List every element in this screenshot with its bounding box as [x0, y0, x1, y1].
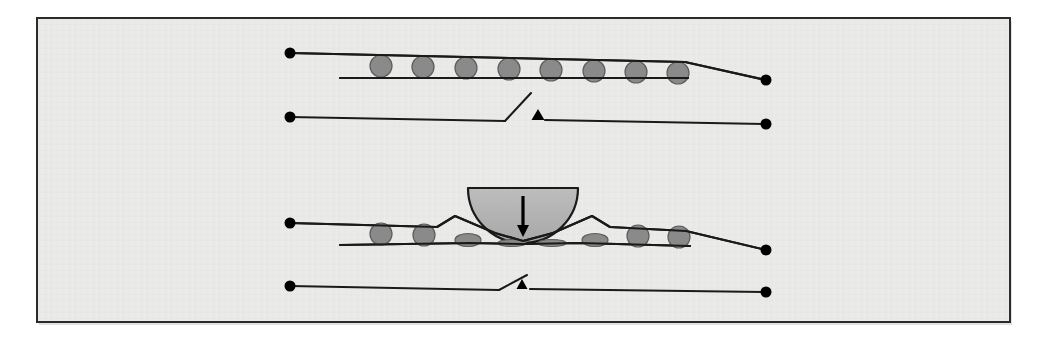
schematic-figure — [0, 0, 1048, 344]
channel-right-node — [761, 75, 772, 86]
channel-right-node — [761, 245, 772, 256]
channel-left-node — [285, 218, 296, 229]
contact-left-node — [285, 112, 296, 123]
channel-left-node — [285, 48, 296, 59]
bead — [370, 55, 392, 77]
bead — [625, 61, 647, 83]
contact-right-node — [761, 119, 772, 130]
bead — [455, 234, 481, 247]
bead — [667, 62, 689, 84]
bead — [498, 58, 520, 80]
bead — [455, 57, 477, 79]
figure-root — [0, 0, 1048, 344]
bead — [412, 56, 434, 78]
contact-left-node — [285, 281, 296, 292]
contact-right-node — [761, 287, 772, 298]
